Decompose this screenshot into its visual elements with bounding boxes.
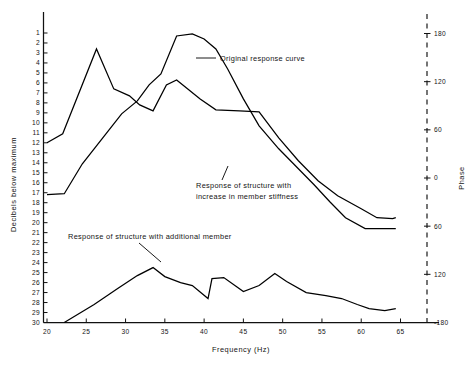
x-axis-tick-label: 20 [43,328,51,335]
y-axis-left-tick-label: 17 [32,189,40,196]
x-axis-tick-label: 65 [396,328,404,335]
y-axis-right-tick-label: 120 [434,271,446,278]
y-axis-left-tick-label: 19 [32,209,40,216]
annotation-original-curve: Original response curve [220,54,305,63]
y-axis-left-tick-label: 27 [32,289,40,296]
annotation-additional-member: Response of structure with additional me… [68,232,232,241]
y-axis-left-tick-label: 8 [36,99,40,106]
y-axis-left-tick-label: 1 [36,29,40,36]
series-line-response-of-structure-with-additional-member [64,268,396,323]
y-axis-left-tick-label: 18 [32,199,40,206]
y-axis-left-tick-label: 23 [32,249,40,256]
y-axis-right-tick-label: 60 [434,223,442,230]
y-axis-left-tick-label: 25 [32,269,40,276]
y-axis-left-tick-label: 16 [32,179,40,186]
y-axis-left-tick-label: 20 [32,219,40,226]
y-axis-left-tick-label: 28 [32,299,40,306]
y-axis-right-tick-label: 0 [434,174,438,181]
x-axis-tick-label: 25 [82,328,90,335]
y-axis-left-tick-label: 21 [32,229,40,236]
y-axis-left-tick-label: 26 [32,279,40,286]
y-axis-left-tick-label: 24 [32,259,40,266]
x-axis-tick-label: 45 [239,328,247,335]
y-axis-right-tick-label: 120 [434,78,446,85]
y-axis-left-tick-label: 3 [36,49,40,56]
y-axis-left-tick-label: 7 [36,89,40,96]
y-axis-left-tick-label: 14 [32,159,40,166]
y-axis-right-tick-label: -180 [434,319,449,326]
y-axis-left-ticks: 1234567891011121314151617181920212223242… [32,29,48,326]
y-axis-left-tick-label: 13 [32,149,40,156]
annotation-stiffness-line2: increase in member stiffness [196,192,298,201]
y-axis-left-title: Decibels below maximum [9,137,18,232]
y-axis-right-title: Phase [457,166,466,189]
chart-canvas: 1234567891011121314151617181920212223242… [0,0,472,365]
y-axis-right-tick-label: 180 [434,30,446,37]
y-axis-left-tick-label: 30 [32,319,40,326]
leader-stiffness-curve [222,166,228,180]
data-curves-group [47,34,396,323]
y-axis-left-tick-label: 29 [32,309,40,316]
y-axis-left-tick-label: 11 [32,129,40,136]
leader-additional-member [139,243,161,262]
y-axis-left-tick-label: 15 [32,169,40,176]
x-axis-tick-label: 50 [279,328,287,335]
y-axis-left-tick-label: 2 [36,39,40,46]
y-axis-left-tick-label: 5 [36,69,40,76]
y-axis-left-tick-label: 9 [36,109,40,116]
annotation-stiffness-line1: Response of structure with [196,181,291,190]
y-axis-left-tick-label: 10 [32,119,40,126]
y-axis-left-tick-label: 22 [32,239,40,246]
x-axis-ticks: 20253035404550556065 [43,319,405,335]
x-axis-title: Frequency (Hz) [212,345,270,354]
y-axis-left-tick-label: 4 [36,59,40,66]
y-axis-left-tick-label: 12 [32,139,40,146]
x-axis-tick-label: 35 [161,328,169,335]
x-axis-tick-label: 30 [122,328,130,335]
x-axis-tick-label: 60 [357,328,365,335]
y-axis-right-ticks: 18012060060120-180 [424,30,449,326]
x-axis-tick-label: 40 [200,328,208,335]
x-axis-tick-label: 55 [318,328,326,335]
response-curve-chart: 1234567891011121314151617181920212223242… [0,0,472,365]
y-axis-left-tick-label: 6 [36,79,40,86]
y-axis-right-tick-label: 60 [434,126,442,133]
